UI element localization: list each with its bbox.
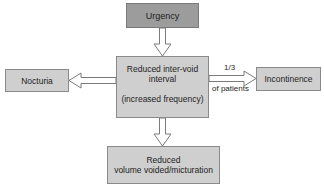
- node-main-line1: Reduced inter-void: [127, 64, 198, 74]
- node-urgency: Urgency: [126, 3, 199, 28]
- node-main-line3: (increased frequency): [121, 94, 203, 104]
- arrow-urgency-to-main: [154, 28, 171, 56]
- edge-label-of-patients: of patients: [212, 84, 249, 93]
- node-reduced-inter-void-interval: Reduced inter-void interval (increased f…: [116, 56, 209, 118]
- arrow-main-to-nocturia: [69, 73, 116, 88]
- node-nocturia-label: Nocturia: [21, 76, 53, 86]
- node-bottom-line2: volume voided/micturation: [114, 165, 213, 175]
- node-reduced-volume-voided: Reduced volume voided/micturation: [107, 146, 220, 184]
- edge-label-fraction: 1/3: [224, 63, 235, 72]
- node-bottom-line1: Reduced: [146, 155, 180, 165]
- node-urgency-label: Urgency: [146, 11, 180, 21]
- node-incontinence-label: Incontinence: [264, 74, 312, 84]
- node-incontinence: Incontinence: [256, 67, 321, 91]
- node-nocturia: Nocturia: [5, 69, 69, 92]
- node-main-line2: interval: [149, 74, 176, 84]
- arrow-main-to-bottom: [154, 118, 171, 146]
